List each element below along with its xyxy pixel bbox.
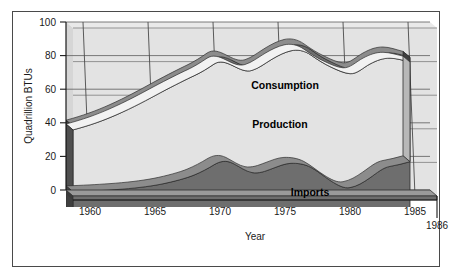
y-tick-0: 0	[50, 185, 56, 196]
x-tick-1975: 1975	[274, 206, 297, 217]
series-label-imports: Imports	[291, 186, 330, 198]
x-axis-title: Year	[245, 231, 266, 242]
x-tick-1985: 1985	[404, 206, 427, 217]
y-axis	[60, 22, 66, 190]
x-tick-1986: 1986	[426, 220, 449, 231]
x-tick-1960: 1960	[79, 206, 102, 217]
chart-figure: 100 80 60 40 20 0 Quadrillion BTUs 1960 …	[0, 0, 454, 280]
y-tick-80: 80	[45, 50, 57, 61]
y-tick-labels: 100 80 60 40 20 0	[39, 17, 56, 196]
y-tick-20: 20	[45, 151, 57, 162]
y-tick-40: 40	[45, 117, 57, 128]
chart-floor	[66, 190, 437, 200]
x-tick-labels: 1960 1965 1970 1975 1980 1985 1986	[79, 206, 449, 231]
energy-ribbon-chart: 100 80 60 40 20 0 Quadrillion BTUs 1960 …	[0, 0, 454, 280]
x-tick-1965: 1965	[144, 206, 167, 217]
y-axis-title: Quadrillion BTUs	[23, 68, 34, 144]
x-tick-1980: 1980	[339, 206, 362, 217]
series-label-consumption: Consumption	[251, 79, 319, 91]
y-tick-100: 100	[39, 17, 56, 28]
x-tick-1970: 1970	[209, 206, 232, 217]
series-label-production: Production	[252, 118, 307, 130]
y-tick-60: 60	[45, 84, 57, 95]
